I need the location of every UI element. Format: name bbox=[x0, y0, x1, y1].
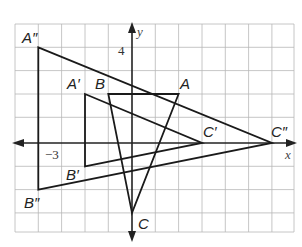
x-axis-label: x bbox=[284, 147, 291, 162]
x-tick-label: −3 bbox=[45, 147, 59, 162]
vertex-label-c: C bbox=[138, 215, 149, 232]
y-axis-down-arrow-icon bbox=[128, 231, 136, 242]
vertex-label-b: B bbox=[95, 75, 105, 92]
vertex-label-a-prime: A′ bbox=[66, 75, 81, 92]
vertex-label-c-prime: C′ bbox=[203, 123, 218, 140]
x-axis-left-arrow-icon bbox=[12, 139, 24, 147]
x-axis-right-arrow-icon bbox=[286, 139, 297, 147]
y-axis-label: y bbox=[135, 24, 143, 39]
vertex-label-a-double-prime: A″ bbox=[21, 29, 38, 46]
triangle-abc bbox=[108, 94, 178, 213]
vertex-label-c-double-prime: C″ bbox=[271, 123, 288, 140]
coordinate-plane: y x 4 −3 A B C A′ B′ C′ A″ B″ C″ bbox=[0, 0, 302, 247]
triangle-a-prime bbox=[85, 94, 202, 166]
y-tick-label: 4 bbox=[118, 43, 125, 58]
vertex-label-b-prime: B′ bbox=[66, 166, 80, 183]
vertex-label-b-double-prime: B″ bbox=[24, 194, 40, 211]
vertex-label-a: A bbox=[179, 75, 190, 92]
